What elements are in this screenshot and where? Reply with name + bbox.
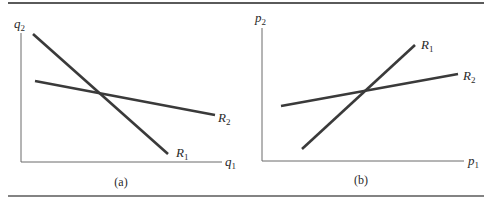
panel-a: q2 q1 R1 R2 (a) bbox=[14, 16, 236, 189]
panel-b-r2-label: R2 bbox=[462, 68, 475, 85]
panel-b: p2 p1 R1 R2 (b) bbox=[254, 10, 479, 187]
panel-a-line-r2 bbox=[35, 81, 215, 115]
panel-a-caption: (a) bbox=[114, 175, 127, 189]
figure-canvas: q2 q1 R1 R2 (a) p2 p1 R1 R2 (b) bbox=[0, 0, 492, 200]
panel-a-x-axis-label: q1 bbox=[225, 154, 236, 171]
panel-b-y-axis-label: p2 bbox=[254, 10, 266, 27]
panel-b-r1-label: R1 bbox=[420, 37, 433, 54]
panel-a-r2-label: R2 bbox=[217, 110, 230, 127]
panel-b-line-r2 bbox=[281, 74, 458, 106]
panel-a-r1-label: R1 bbox=[175, 145, 188, 162]
panel-a-y-axis-label: q2 bbox=[14, 16, 25, 33]
panel-b-caption: (b) bbox=[354, 173, 368, 187]
panel-b-x-axis-label: p1 bbox=[467, 153, 479, 170]
panel-b-line-r1 bbox=[302, 45, 415, 149]
